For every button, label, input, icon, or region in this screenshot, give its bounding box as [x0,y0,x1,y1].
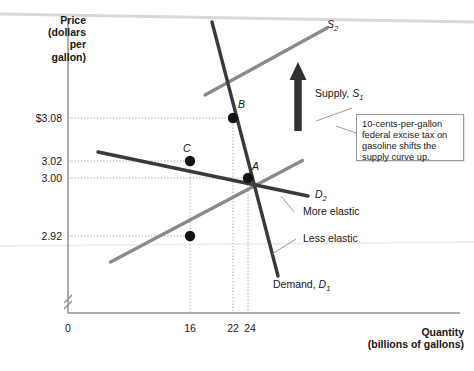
y-tick-label-308: $3.08 [8,112,62,124]
point-C [185,156,195,166]
point-A [243,173,253,183]
curve-label-demand-d1: Demand, D1 [273,278,330,293]
y-tick-label-302: 3.02 [8,155,62,167]
shift-arrow-icon [290,62,307,131]
curve-label-supply-s1: Supply, S1 [315,87,363,102]
leader-callout [336,126,356,133]
curve-label-s2: S2 [327,18,338,33]
page-rule-mid [0,242,474,246]
curve-label-d2-symbol: D [315,188,323,200]
x-tick-label-16: 16 [175,322,205,334]
x-tick-label-24: 24 [235,322,265,334]
curve-label-demand-sub: 1 [326,284,330,293]
curve-label-supply-prefix: Supply, [315,87,352,99]
y-axis-title: Price (dollars per gallon) [10,14,86,63]
curve-label-demand-prefix: Demand, [273,278,319,290]
leader-more-elastic [281,196,294,212]
point-label-B: B [238,98,245,110]
tax-callout-box: 10-cents-per-gallon federal excise tax o… [356,114,464,161]
point-label-C: C [183,142,191,154]
annotation-more-elastic: More elastic [303,205,360,217]
y-tick-label-292: 2.92 [8,230,62,242]
annotation-less-elastic: Less elastic [303,232,358,244]
y-tick-label-300: 3.00 [8,172,62,184]
x-tick-label-0: 0 [53,322,83,334]
leader-supply-s1 [316,108,352,121]
point-B [228,113,238,123]
point-label-A: A [252,160,259,172]
curve-label-d2-sub: 2 [323,194,327,203]
x-axis-title: Quantity (billions of gallons) [296,326,464,350]
curve-label-s2-sub: 2 [334,24,338,33]
supply-demand-figure: Price (dollars per gallon) Quantity (bil… [0,0,474,371]
curve-label-demand-symbol: D [319,278,327,290]
point-seller-price [185,231,195,241]
curve-label-d2: D2 [315,188,327,203]
curve-label-supply-sub: 1 [359,93,363,102]
gridlines [68,118,248,313]
leader-less-elastic [272,239,296,254]
curve-label-s2-symbol: S [327,18,334,30]
